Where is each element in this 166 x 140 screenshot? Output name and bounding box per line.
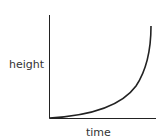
growth-curve <box>50 26 152 118</box>
y-axis-label: height <box>9 58 44 71</box>
x-axis-label: time <box>86 126 111 139</box>
